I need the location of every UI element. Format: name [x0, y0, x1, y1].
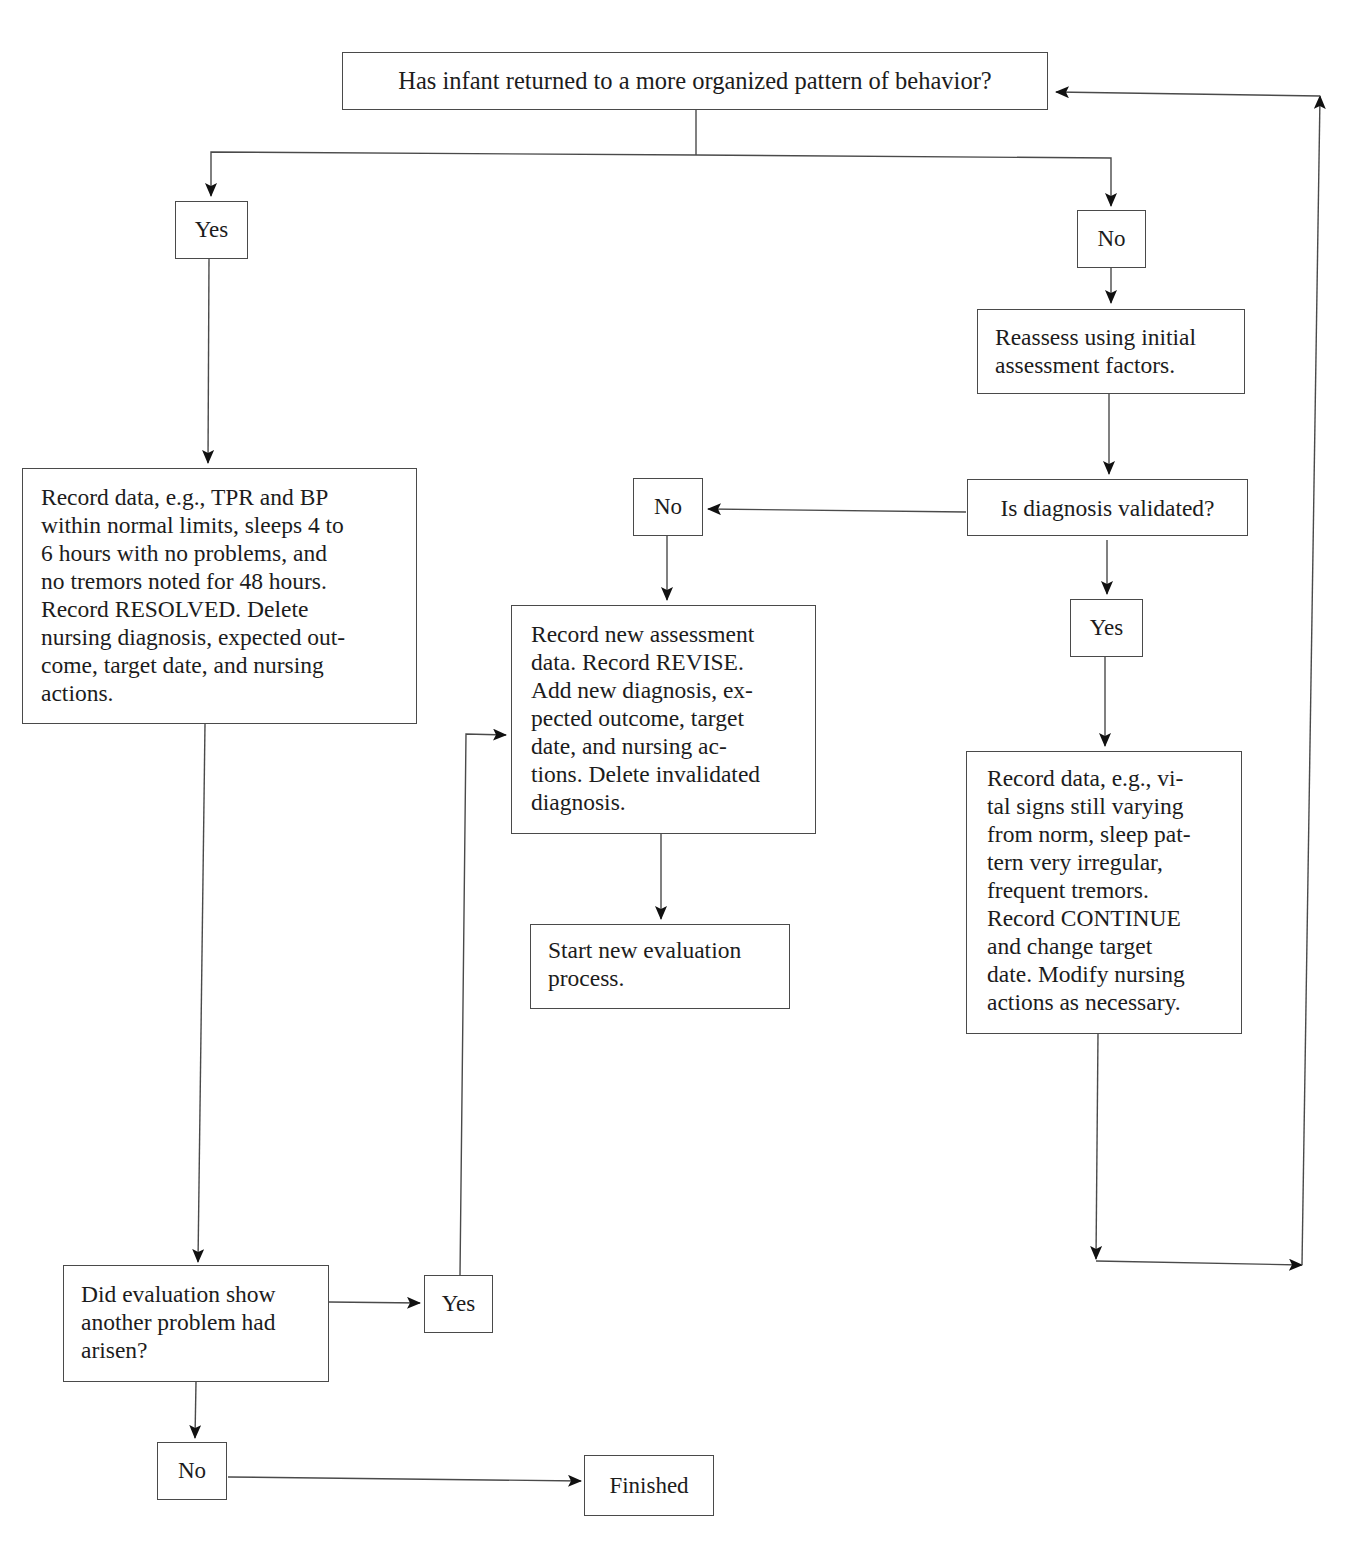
- validation-question-box: Is diagnosis validated?: [967, 479, 1248, 536]
- validated-yes-box: Yes: [1070, 599, 1143, 657]
- resolved-action-text: Record data, e.g., TPR and BP within nor…: [41, 483, 402, 707]
- continue-action-text: Record data, e.g., vi- tal signs still v…: [987, 764, 1227, 1016]
- connector-to-no-right: [696, 155, 1111, 206]
- reassess-action-text: Reassess using initial assessment factor…: [995, 323, 1230, 379]
- finished-box: Finished: [584, 1455, 714, 1516]
- connector-yes-to-resolved: [208, 258, 209, 463]
- followup-no-label: No: [178, 1458, 206, 1484]
- validated-no-box: No: [633, 478, 703, 536]
- revise-action-text: Record new assessment data. Record REVIS…: [531, 620, 801, 816]
- connector-yes-to-revise: [460, 734, 506, 1276]
- validated-yes-label: Yes: [1090, 615, 1123, 641]
- yes-label-box: Yes: [175, 201, 248, 259]
- connector-to-yes-left: [211, 152, 696, 196]
- connector-loop-to-start: [1056, 92, 1320, 96]
- followup-question-box: Did evaluation show another problem had …: [63, 1265, 329, 1382]
- connector-continue-down: [1096, 1034, 1098, 1259]
- validation-question-text: Is diagnosis validated?: [1000, 494, 1214, 522]
- reassess-action-box: Reassess using initial assessment factor…: [977, 309, 1245, 394]
- connector-resolved-to-question: [198, 724, 205, 1262]
- revise-action-box: Record new assessment data. Record REVIS…: [511, 605, 816, 834]
- connector-question-to-yes: [329, 1302, 420, 1303]
- followup-yes-box: Yes: [424, 1275, 493, 1333]
- cropped-page-heading: [110, 0, 1310, 12]
- connector-validation-to-no: [708, 509, 966, 512]
- new-evaluation-box: Start new evaluation process.: [530, 924, 790, 1009]
- no-label: No: [1097, 226, 1125, 252]
- new-evaluation-text: Start new evaluation process.: [548, 936, 775, 992]
- followup-yes-label: Yes: [442, 1291, 475, 1317]
- yes-label: Yes: [195, 217, 228, 243]
- connector-question-to-no: [195, 1382, 196, 1438]
- followup-question-text: Did evaluation show another problem had …: [81, 1280, 314, 1364]
- connector-no-to-finished: [228, 1477, 581, 1481]
- validated-no-label: No: [654, 494, 682, 520]
- start-question-text: Has infant returned to a more organized …: [398, 67, 991, 95]
- connector-loop-up: [1302, 96, 1320, 1265]
- followup-no-box: No: [157, 1442, 227, 1500]
- continue-action-box: Record data, e.g., vi- tal signs still v…: [966, 751, 1242, 1034]
- finished-label: Finished: [609, 1473, 688, 1499]
- resolved-action-box: Record data, e.g., TPR and BP within nor…: [22, 468, 417, 724]
- start-question-box: Has infant returned to a more organized …: [342, 52, 1048, 110]
- connector-loop-right: [1096, 1261, 1302, 1265]
- no-label-box: No: [1077, 210, 1146, 268]
